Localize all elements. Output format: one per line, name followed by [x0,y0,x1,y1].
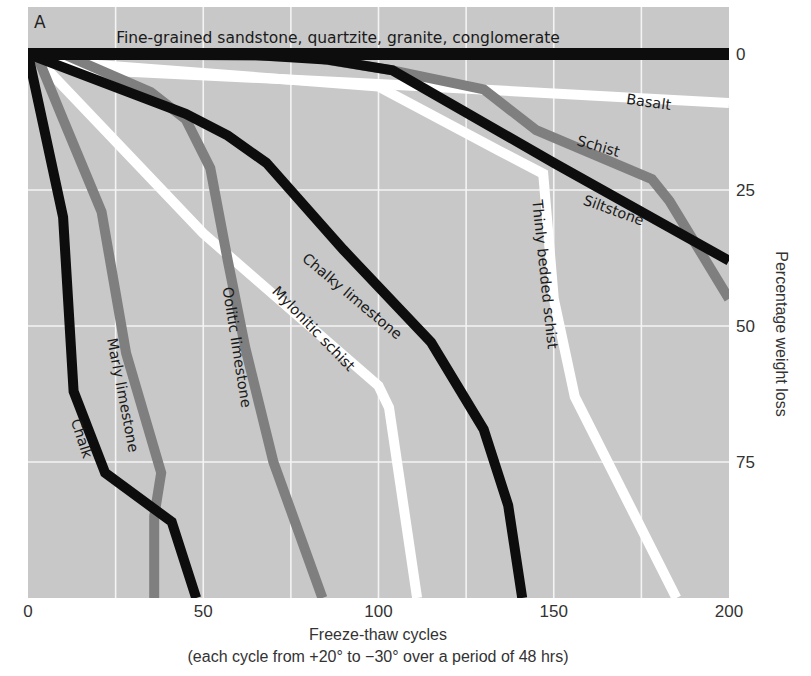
x-axis-subtitle: (each cycle from +20° to −30° over a per… [188,648,569,665]
x-tick-label: 200 [715,602,743,621]
x-tick-label: 100 [364,602,392,621]
series-label: Fine-grained sandstone, quartzite, grani… [116,29,560,47]
freeze-thaw-chart: Fine-grained sandstone, quartzite, grani… [0,0,811,676]
panel-label: A [34,12,46,32]
x-tick-label: 50 [194,602,213,621]
x-axis-ticks: 050100150200 [23,602,743,621]
x-tick-label: 0 [23,602,32,621]
y-axis-ticks: 0255075 [736,45,755,472]
y-tick-label: 50 [736,317,755,336]
x-tick-label: 150 [540,602,568,621]
x-axis-title: Freeze-thaw cycles [309,626,447,643]
y-tick-label: 25 [736,181,755,200]
y-tick-label: 0 [736,45,745,64]
y-tick-label: 75 [736,453,755,472]
y-axis-title: Percentage weight loss [773,251,790,416]
